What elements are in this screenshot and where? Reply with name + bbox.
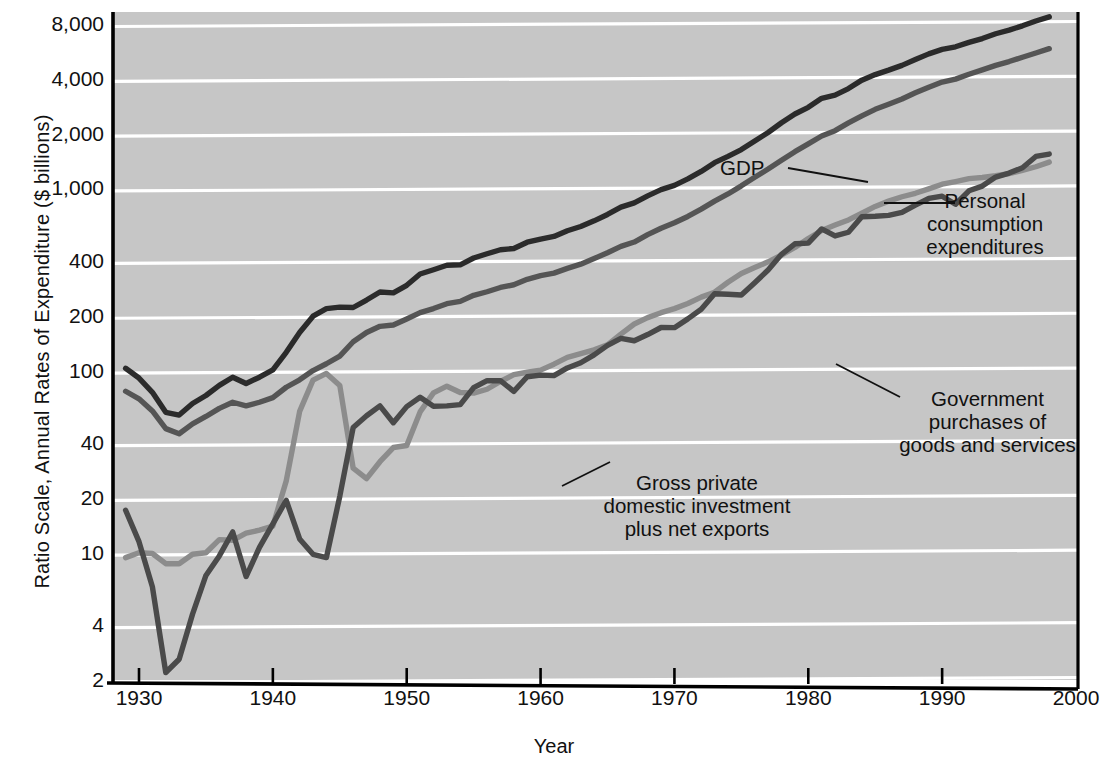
annotation-gdp: GDP xyxy=(720,157,764,180)
plot-area xyxy=(0,0,1108,769)
annotation-personal-consumption-expenditures: Personal consumption expenditures xyxy=(880,190,1090,259)
chart-figure: Ratio Scale, Annual Rates of Expenditure… xyxy=(0,0,1108,769)
plot-background xyxy=(113,12,1078,680)
x-axis-title: Year xyxy=(0,735,1108,758)
x-axis-line xyxy=(107,683,1078,689)
annotation-gross-private-investment: Gross private domestic investment plus n… xyxy=(562,472,832,541)
annotation-government-purchases: Government purchases of goods and servic… xyxy=(870,388,1105,457)
